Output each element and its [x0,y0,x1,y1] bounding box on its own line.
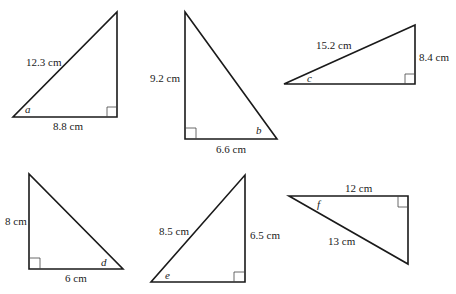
angle-label-e: e [165,269,170,281]
side-label-hypotenuse: 13 cm [328,235,356,247]
triangle-f-outline [289,196,408,264]
right-angle-marker [185,128,196,139]
angle-label-f: f [317,198,322,210]
triangle-d-outline [29,174,123,269]
side-label-vertical: 9.2 cm [150,72,180,84]
angle-label-c: c [307,72,312,84]
side-label-vertical: 6.5 cm [250,229,280,241]
angle-label-d: d [101,256,107,268]
side-label-vertical: 8 cm [5,215,27,227]
triangle-b-outline [185,12,277,139]
side-label-top: 12 cm [345,182,373,194]
triangle-e: 8.5 cm 6.5 cm e [151,175,280,282]
triangle-c-outline [284,25,415,84]
triangle-f: 12 cm 13 cm f [289,182,408,264]
right-angle-marker [234,272,245,282]
right-angle-marker [29,258,40,269]
triangle-c: 15.2 cm 8.4 cm c [284,25,449,84]
side-label-base: 6.6 cm [216,143,246,155]
side-label-base: 8.8 cm [53,120,83,132]
triangle-a: 12.3 cm 8.8 cm a [13,12,117,132]
side-label-hypotenuse: 15.2 cm [316,39,352,51]
side-label-vertical: 8.4 cm [419,51,449,63]
right-angle-marker [405,74,415,84]
triangle-b: 9.2 cm 6.6 cm b [150,12,277,155]
right-angle-marker [107,107,117,117]
triangle-d: 8 cm 6 cm d [5,174,123,284]
right-angle-marker [398,196,408,207]
side-label-base: 6 cm [65,272,87,284]
triangles-diagram: 12.3 cm 8.8 cm a 9.2 cm 6.6 cm b 15.2 cm… [0,0,456,294]
angle-label-a: a [25,103,31,115]
side-label-hypotenuse: 8.5 cm [159,225,189,237]
side-label-hypotenuse: 12.3 cm [26,56,62,68]
angle-label-b: b [256,124,262,136]
